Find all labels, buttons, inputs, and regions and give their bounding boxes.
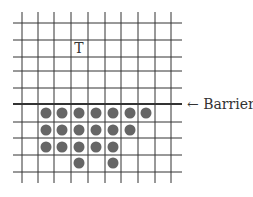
- dot-icon: [74, 108, 85, 119]
- grid-diagram: T ← Barrier: [0, 0, 253, 197]
- grid-lines: [13, 12, 182, 183]
- dot-icon: [108, 158, 119, 169]
- barrier-label: ← Barrier: [187, 96, 253, 112]
- dot-icon: [91, 125, 102, 136]
- dot-icon: [41, 108, 52, 119]
- dot-icon: [108, 142, 119, 153]
- dot-icon: [74, 142, 85, 153]
- dot-icon: [41, 142, 52, 153]
- dot-icon: [91, 142, 102, 153]
- dot-icon: [57, 108, 68, 119]
- dot-icon: [108, 108, 119, 119]
- dot-icon: [108, 125, 119, 136]
- dot-icon: [141, 108, 152, 119]
- dot-icon: [125, 108, 136, 119]
- dot-icon: [41, 125, 52, 136]
- dot-icon: [74, 158, 85, 169]
- target-label-t: T: [74, 40, 84, 56]
- dot-icon: [57, 142, 68, 153]
- dot-icon: [125, 125, 136, 136]
- dot-icon: [57, 125, 68, 136]
- dot-icon: [74, 125, 85, 136]
- dot-icon: [91, 108, 102, 119]
